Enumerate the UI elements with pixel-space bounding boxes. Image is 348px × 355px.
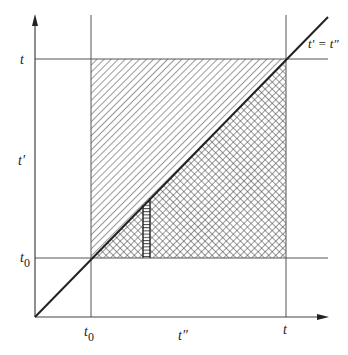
y-axis-arrow-icon <box>32 14 38 26</box>
diagonal-label: t' = t″ <box>308 36 339 51</box>
y-tick-label-t: t <box>20 52 25 67</box>
y-tick-label-t0: t0 <box>20 250 30 270</box>
diagram-canvas: t t' t0 t0 t″ t t' = t″ <box>0 0 348 355</box>
x-axis-label: t″ <box>178 328 188 343</box>
integration-region-diagram: t t' t0 t0 t″ t t' = t″ <box>0 0 348 355</box>
y-axis-label: t' <box>18 153 26 168</box>
x-tick-label-t: t <box>283 322 288 337</box>
x-tick-label-t0: t0 <box>84 324 94 344</box>
x-axis-arrow-icon <box>317 314 329 320</box>
vertical-strip-hatch <box>143 198 150 258</box>
